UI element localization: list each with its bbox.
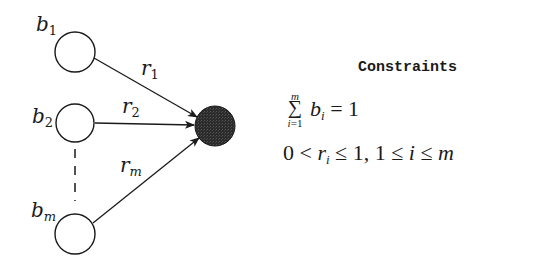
label-b2: b2 bbox=[32, 104, 53, 130]
node-b1 bbox=[55, 32, 95, 72]
edge-rm bbox=[93, 138, 199, 223]
label-r2: r2 bbox=[122, 94, 140, 120]
sum-symbol: ∑ bbox=[283, 97, 307, 117]
node-b2 bbox=[56, 104, 94, 142]
label-bm: bm bbox=[31, 198, 56, 224]
label-r1: r1 bbox=[141, 56, 159, 82]
label-b1: b1 bbox=[36, 12, 57, 38]
constraints-title: Constraints bbox=[358, 59, 457, 76]
constraint-range-equation: 0 < ri ≤ 1, 1 ≤ i ≤ m bbox=[283, 140, 454, 168]
sum-expression: bi = 1 bbox=[310, 96, 359, 124]
constraint-sum-equation: m ∑ i=1 bi = 1 bbox=[283, 90, 483, 136]
edge-r2 bbox=[95, 123, 194, 125]
label-rm: rm bbox=[120, 153, 142, 179]
node-target bbox=[195, 106, 235, 146]
node-bm bbox=[55, 214, 95, 254]
sum-lower-limit: i=1 bbox=[283, 117, 307, 129]
